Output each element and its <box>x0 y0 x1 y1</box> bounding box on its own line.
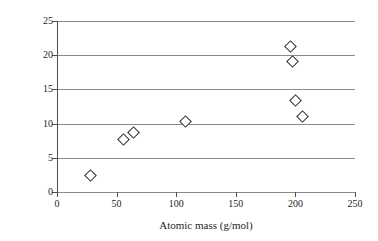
data-point <box>296 110 309 123</box>
data-point <box>127 126 140 139</box>
x-tick-50 <box>117 192 118 197</box>
x-tick-label-100: 100 <box>169 199 184 209</box>
gridline-y-20 <box>57 55 355 56</box>
x-tick-label-150: 150 <box>228 199 243 209</box>
y-tick-label-25: 25 <box>43 16 53 26</box>
x-axis-ticks: 050100150200250 <box>57 192 355 216</box>
data-point <box>84 169 97 182</box>
x-tick-200 <box>295 192 296 197</box>
data-point <box>117 133 130 146</box>
y-tick-label-10: 10 <box>43 119 53 129</box>
data-point <box>289 94 302 107</box>
x-tick-250 <box>355 192 356 197</box>
x-tick-label-200: 200 <box>288 199 303 209</box>
y-tick-label-20: 20 <box>43 50 53 60</box>
gridline-y-5 <box>57 158 355 159</box>
y-tick-label-0: 0 <box>48 187 53 197</box>
data-point <box>286 55 299 68</box>
x-tick-150 <box>236 192 237 197</box>
x-tick-label-0: 0 <box>55 199 60 209</box>
plot-area: 0510152025 <box>57 21 355 192</box>
x-tick-0 <box>57 192 58 197</box>
x-tick-label-50: 50 <box>112 199 122 209</box>
scatter-chart-figure: 0510152025 050100150200250 Atomic mass (… <box>0 0 378 241</box>
data-point <box>284 40 297 53</box>
x-tick-label-250: 250 <box>348 199 363 209</box>
y-axis-line <box>57 21 58 192</box>
gridline-y-10 <box>57 124 355 125</box>
y-tick-label-5: 5 <box>48 153 53 163</box>
x-tick-100 <box>176 192 177 197</box>
gridline-y-15 <box>57 89 355 90</box>
data-point <box>179 115 192 128</box>
x-axis-title: Atomic mass (g/mol) <box>57 219 355 232</box>
gridline-y-25 <box>57 21 355 22</box>
y-tick-label-15: 15 <box>43 84 53 94</box>
